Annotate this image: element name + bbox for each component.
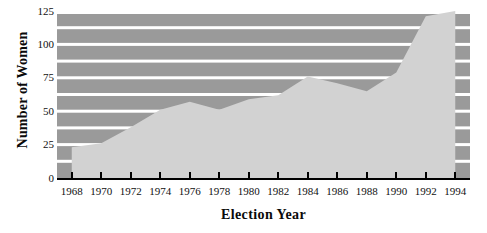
x-tick-mark xyxy=(395,172,397,179)
x-tick-mark xyxy=(248,172,250,179)
x-tick-mark xyxy=(336,172,338,179)
x-tick-mark xyxy=(307,172,309,179)
x-axis-tick-labels: 1968197019721974197619781980198219841986… xyxy=(0,0,487,233)
x-tick-mark xyxy=(159,172,161,179)
x-tick-mark xyxy=(100,172,102,179)
x-tick-mark xyxy=(189,172,191,179)
x-tick-mark xyxy=(277,172,279,179)
x-tick-mark xyxy=(71,172,73,179)
chart-figure: Number of Women 0255075100125 1968197019… xyxy=(0,0,487,233)
x-tick-mark xyxy=(425,172,427,179)
x-tick-mark xyxy=(366,172,368,179)
x-tick-mark xyxy=(218,172,220,179)
x-tick-mark xyxy=(454,172,456,179)
x-tick-label: 1994 xyxy=(435,186,475,197)
x-tick-mark xyxy=(130,172,132,179)
x-axis-title: Election Year xyxy=(57,207,470,223)
